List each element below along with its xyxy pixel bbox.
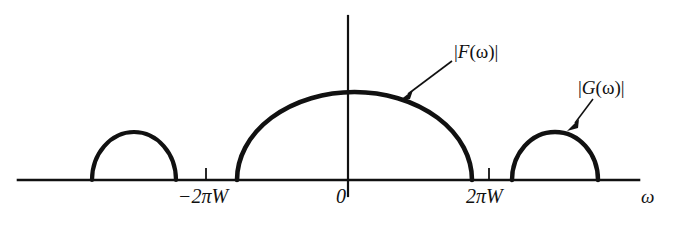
- axis-tick-label-pos-2piW: 2πW: [466, 186, 503, 206]
- curve-label-g-bar-right: |: [621, 77, 625, 98]
- axis-origin-label: 0: [336, 186, 346, 206]
- curve-label-g: |G(ω)|: [578, 78, 625, 97]
- curve-g-right-lobe: [512, 132, 598, 180]
- axis-name-omega: ω: [641, 187, 654, 206]
- curve-label-f: |F(ω)|: [454, 42, 498, 61]
- annotation-arrow-f: [399, 61, 452, 101]
- curve-label-f-omega: ω: [476, 41, 489, 62]
- curve-label-f-symbol: F: [458, 41, 470, 62]
- curve-label-f-bar-right: |: [495, 41, 499, 62]
- annotation-arrow-g: [567, 99, 593, 131]
- curve-label-g-symbol: G: [582, 77, 596, 98]
- curve-label-g-omega: ω: [602, 77, 615, 98]
- axis-tick-label-neg-2piW: −2πW: [178, 186, 228, 206]
- curve-g-left-lobe: [92, 132, 176, 180]
- curve-f-main-lobe: [237, 92, 472, 180]
- figure-container: −2πW 0 2πW ω |F(ω)| |G(ω)|: [0, 0, 677, 225]
